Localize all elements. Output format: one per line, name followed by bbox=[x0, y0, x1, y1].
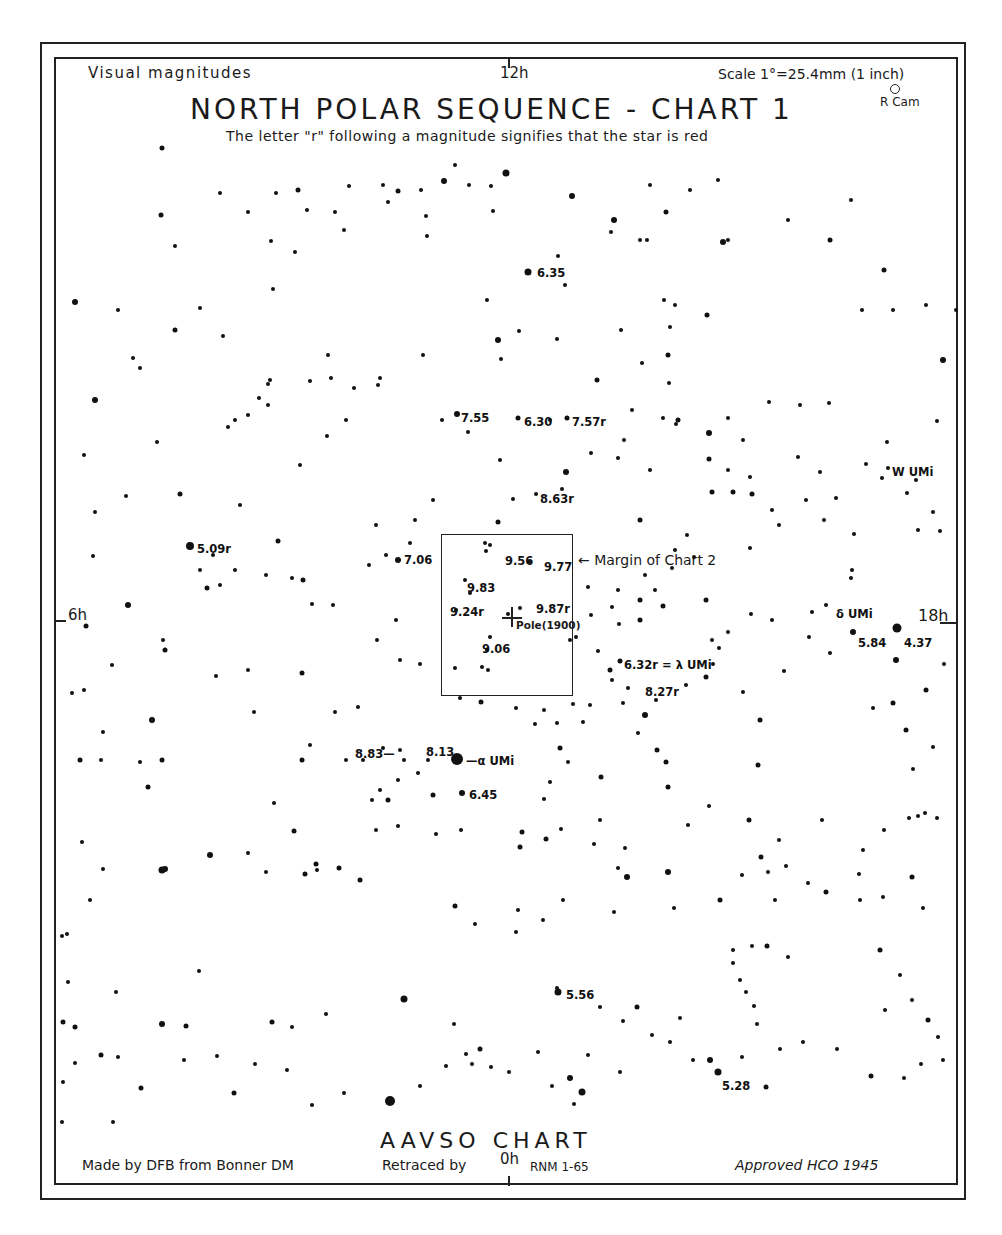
star-dot bbox=[598, 818, 602, 822]
star-dot bbox=[298, 463, 302, 467]
chart-title: NORTH POLAR SEQUENCE - CHART 1 bbox=[190, 93, 793, 126]
star-dot bbox=[770, 508, 774, 512]
star-dot bbox=[78, 758, 83, 763]
star-dot bbox=[370, 798, 374, 802]
star-dot bbox=[292, 829, 297, 834]
magnitude-label: 9.77 bbox=[544, 560, 572, 574]
star-dot bbox=[182, 1058, 186, 1062]
star-dot bbox=[740, 873, 744, 877]
star-dot bbox=[252, 710, 256, 714]
magnitude-label: 8.83— bbox=[355, 747, 395, 761]
star-dot bbox=[315, 868, 319, 872]
star-dot bbox=[495, 337, 501, 343]
star-dot bbox=[396, 824, 400, 828]
star-dot bbox=[750, 492, 755, 497]
star-dot bbox=[904, 728, 909, 733]
made-by-credit: Made by DFB from Bonner DM bbox=[82, 1157, 294, 1173]
star-dot bbox=[60, 1120, 64, 1124]
star-dot bbox=[80, 840, 84, 844]
star-dot bbox=[798, 403, 802, 407]
star-dot bbox=[626, 686, 630, 690]
star-dot bbox=[924, 688, 929, 693]
magnitude-label: 5.84 bbox=[858, 636, 886, 650]
star-dot bbox=[125, 602, 131, 608]
star-dot bbox=[376, 383, 380, 387]
star-dot bbox=[466, 430, 470, 434]
star-dot bbox=[518, 845, 523, 850]
star-dot bbox=[935, 816, 939, 820]
star-dot bbox=[499, 357, 503, 361]
star-dot bbox=[325, 434, 329, 438]
star-dot bbox=[378, 788, 382, 792]
star-dot bbox=[419, 188, 423, 192]
star-dot bbox=[516, 908, 520, 912]
star-dot bbox=[882, 268, 887, 273]
star-dot bbox=[610, 678, 614, 682]
star-dot bbox=[61, 1080, 65, 1084]
star-dot bbox=[61, 1020, 66, 1025]
star-dot bbox=[367, 563, 371, 567]
star-dot bbox=[882, 828, 886, 832]
star-dot bbox=[82, 453, 86, 457]
star-dot bbox=[300, 671, 305, 676]
star-dot bbox=[374, 828, 378, 832]
star-dot bbox=[269, 239, 273, 243]
star-dot bbox=[467, 183, 471, 187]
star-dot bbox=[942, 662, 946, 666]
star-dot bbox=[548, 780, 552, 784]
star-dot bbox=[666, 785, 671, 790]
magnitude-label: 8.63r bbox=[540, 492, 574, 506]
star-dot bbox=[478, 1047, 483, 1052]
star-dot bbox=[70, 691, 74, 695]
star-dot bbox=[622, 438, 626, 442]
magnitude-label: 8.27r bbox=[645, 685, 679, 699]
star-dot bbox=[810, 610, 814, 614]
star-dot bbox=[173, 244, 177, 248]
star-dot bbox=[645, 238, 649, 242]
star-dot bbox=[691, 1058, 695, 1062]
star-dot bbox=[418, 662, 422, 666]
magnitude-label: 8.13 bbox=[426, 745, 454, 759]
star-dot bbox=[704, 675, 709, 680]
star-dot bbox=[401, 996, 408, 1003]
star-dot bbox=[740, 1055, 744, 1059]
star-dot bbox=[581, 720, 585, 724]
star-dot bbox=[60, 934, 64, 938]
star-dot bbox=[747, 818, 752, 823]
star-dot bbox=[750, 944, 754, 948]
star-dot bbox=[486, 668, 490, 672]
star-dot bbox=[861, 848, 865, 852]
star-dot bbox=[276, 539, 281, 544]
star-dot bbox=[883, 1008, 887, 1012]
star-dot bbox=[542, 708, 546, 712]
star-dot bbox=[356, 705, 360, 709]
star-dot bbox=[911, 767, 915, 771]
star-dot bbox=[416, 771, 420, 775]
star-dot bbox=[534, 492, 538, 496]
aavso-chart-title: AAVSO CHART bbox=[380, 1128, 592, 1153]
star-dot bbox=[386, 798, 391, 803]
star-dot bbox=[173, 328, 178, 333]
star-dot bbox=[940, 357, 946, 363]
star-dot bbox=[491, 209, 495, 213]
star-dot bbox=[786, 218, 790, 222]
star-dot bbox=[333, 710, 337, 714]
star-dot bbox=[758, 718, 763, 723]
star-dot bbox=[218, 191, 222, 195]
star-dot bbox=[612, 910, 616, 914]
star-dot bbox=[648, 468, 652, 472]
retraced-by-initials: RNM 1-65 bbox=[530, 1160, 589, 1174]
star-dot bbox=[954, 308, 958, 312]
star-dot bbox=[99, 1053, 104, 1058]
star-dot bbox=[232, 1091, 237, 1096]
star-dot bbox=[161, 638, 165, 642]
star-dot bbox=[579, 1089, 586, 1096]
star-dot bbox=[155, 440, 159, 444]
star-dot bbox=[246, 851, 250, 855]
star-dot bbox=[479, 700, 484, 705]
magnitude-label: 6.35 bbox=[537, 266, 565, 280]
star-dot bbox=[114, 990, 118, 994]
star-dot bbox=[871, 706, 875, 710]
magnitude-label: 7.55 bbox=[461, 411, 489, 425]
magnitude-label: 9.83 bbox=[467, 581, 495, 595]
